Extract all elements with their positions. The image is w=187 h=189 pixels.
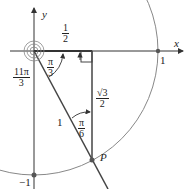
- unit-circle-diagram: [0, 0, 187, 189]
- point-one: [156, 49, 160, 53]
- point-neg-one: [32, 173, 37, 178]
- radius-line: [34, 51, 108, 189]
- tick-neg-one-label: −1: [19, 177, 31, 188]
- hypotenuse-label: 1: [57, 117, 63, 128]
- pi-third-label: π 3: [47, 57, 54, 78]
- y-axis-label: y: [42, 9, 47, 20]
- pi-sixth-label: π 6: [78, 118, 85, 139]
- tick-one-label: 1: [160, 55, 166, 66]
- sqrt3-half-label: √3 2: [96, 88, 109, 109]
- point-p: [90, 158, 95, 163]
- eleven-pi-third-label: 11π 3: [13, 67, 30, 88]
- right-angle-marker: [81, 51, 92, 62]
- x-axis-label: x: [174, 38, 179, 49]
- half-label: 1 2: [62, 23, 69, 44]
- point-p-label: P: [100, 152, 107, 163]
